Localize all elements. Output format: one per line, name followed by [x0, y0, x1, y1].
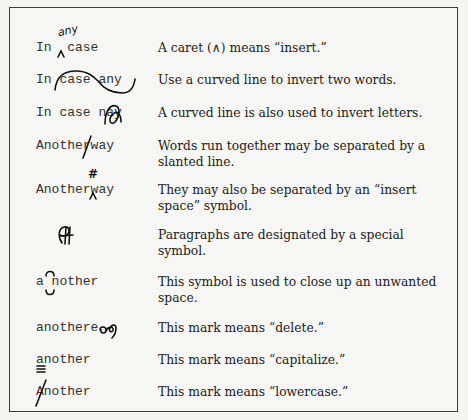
description-lowercase: This mark means “lowercase.” [158, 384, 448, 400]
svg-text:any: any [57, 22, 80, 39]
example-capitalize: another [36, 352, 91, 368]
example-transpose-letters: In case nay [36, 105, 122, 121]
proofreading-marks-table: In case any A caret (∧) means “insert.” … [9, 7, 458, 412]
description-slash: Words run together may be separated by a… [158, 138, 448, 170]
description-paragraph: Paragraphs are designated by a special s… [158, 227, 448, 259]
description-transpose-words: Use a curved line to invert two words. [158, 72, 448, 88]
description-transpose-letters: A curved line is also used to invert let… [158, 105, 448, 121]
example-slash: Anotherway [36, 138, 114, 154]
delete-icon [98, 318, 122, 340]
example-insert: In case [36, 40, 98, 56]
svg-text:#: # [88, 167, 98, 181]
description-insert-space: They may also be separated by an “insert… [158, 182, 448, 214]
paragraph-icon [54, 223, 78, 247]
description-close-up: This symbol is used to close up an unwan… [158, 274, 448, 306]
example-lowercase: Another [36, 384, 91, 400]
example-insert-space: Anotherway [36, 182, 114, 198]
example-close-up: a nother [36, 274, 98, 290]
description-delete: This mark means “delete.” [158, 320, 448, 336]
example-transpose-words: In case any [36, 72, 122, 88]
description-capitalize: This mark means “capitalize.” [158, 352, 448, 368]
example-delete: anothere [36, 320, 98, 336]
description-insert: A caret (∧) means “insert.” [158, 40, 448, 56]
